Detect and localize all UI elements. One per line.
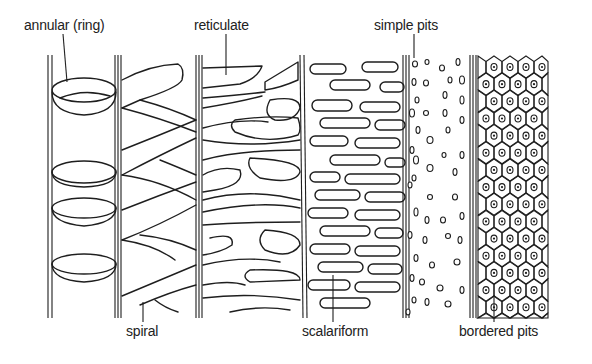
annular-rings — [52, 78, 116, 282]
label-simple-pits: simple pits — [374, 17, 438, 33]
label-annular: annular (ring) — [24, 17, 104, 33]
label-spiral: spiral — [126, 323, 158, 339]
spiral-band — [122, 64, 196, 312]
label-bordered-pits: bordered pits — [459, 323, 538, 339]
bordered-pits — [478, 56, 548, 318]
label-reticulate: reticulate — [194, 17, 249, 33]
reticulate-network — [203, 62, 300, 312]
label-scalariform: scalariform — [302, 323, 368, 339]
scalariform-bars — [308, 62, 405, 308]
simple-pits — [406, 59, 465, 316]
xylem-vessels-drawing — [0, 0, 592, 364]
xylem-diagram: annular (ring) reticulate simple pits sp… — [0, 0, 592, 364]
